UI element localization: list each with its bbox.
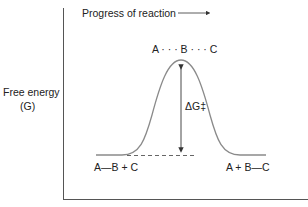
transition-state-label: A · · · B · · · C [152,44,217,55]
y-axis-symbol: (G) [20,101,35,112]
x-axis-label: Progress of reaction [82,8,176,19]
products-label: A + B—C [226,162,269,173]
y-axis-label: Free energy [3,87,60,98]
energy-diagram-canvas [0,0,308,207]
reactants-label: A—B + C [94,162,138,173]
activation-energy-label: ΔG‡ [185,101,206,112]
